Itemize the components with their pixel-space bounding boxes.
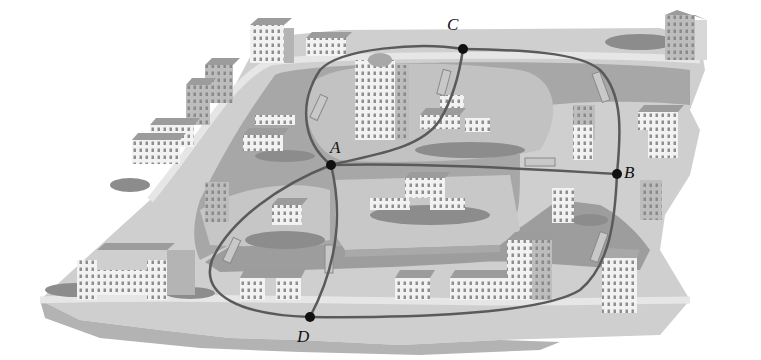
node-label-c: C <box>447 16 458 33</box>
node-a-dot <box>326 160 336 170</box>
node-label-b: B <box>624 164 634 181</box>
node-label-d: D <box>297 328 309 345</box>
node-d-dot <box>305 312 315 322</box>
node-c-dot <box>458 44 468 54</box>
node-b-dot <box>612 169 622 179</box>
city-graph-illustration <box>0 0 761 360</box>
node-label-a: A <box>330 139 340 156</box>
